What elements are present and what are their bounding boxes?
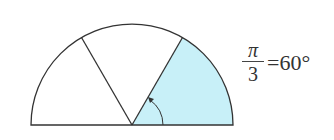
shaded-sector <box>132 38 233 126</box>
fraction-denominator: 3 <box>248 63 258 85</box>
angle-label: π 3 =60° <box>242 40 310 85</box>
radius-120deg <box>82 38 133 126</box>
fraction-numerator: π <box>246 40 260 60</box>
fraction: π 3 <box>242 40 264 85</box>
fraction-bar <box>242 61 264 62</box>
equals-degrees: =60° <box>267 50 310 76</box>
